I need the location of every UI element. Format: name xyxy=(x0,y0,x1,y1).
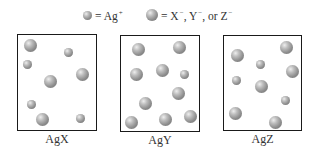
anion-sphere-icon xyxy=(280,41,293,54)
anion-sphere-icon xyxy=(139,97,152,110)
silver-ion-sphere-icon xyxy=(232,76,241,85)
silver-ion-sphere-icon xyxy=(281,96,290,105)
anion-sphere-icon xyxy=(36,113,49,126)
silver-ion-sphere-icon xyxy=(76,114,85,123)
silver-ion-sphere-icon xyxy=(64,48,73,57)
anion-sphere-icon xyxy=(130,68,143,81)
anion-sphere-icon xyxy=(125,116,138,129)
anion-sphere-icon xyxy=(132,43,145,56)
legend-label-silver: = Ag+ xyxy=(95,9,123,22)
panel-label-agx: AgX xyxy=(27,132,87,147)
legend-item-anion: = X−, Y−, or Z− xyxy=(146,6,232,24)
anion-sphere-icon xyxy=(184,110,197,123)
anion-sphere-icon xyxy=(269,116,282,129)
panel-label-agy: AgY xyxy=(130,133,190,148)
anion-sphere-icon xyxy=(255,80,268,93)
anion-sphere-icon xyxy=(172,87,185,100)
silver-ion-sphere-icon xyxy=(256,60,265,69)
small-sphere-icon xyxy=(83,11,92,20)
large-sphere-icon xyxy=(146,9,158,21)
silver-ion-sphere-icon xyxy=(180,70,189,79)
legend-label-anion: = X−, Y−, or Z− xyxy=(161,9,232,22)
anion-sphere-icon xyxy=(286,65,299,78)
legend: = Ag+ = X−, Y−, or Z− xyxy=(0,6,316,24)
anion-sphere-icon xyxy=(231,49,244,62)
silver-ion-sphere-icon xyxy=(23,60,32,69)
legend-item-silver: = Ag+ xyxy=(83,6,123,24)
anion-sphere-icon xyxy=(24,39,37,52)
silver-ion-sphere-icon xyxy=(27,100,36,109)
anion-sphere-icon xyxy=(173,41,186,54)
anion-sphere-icon xyxy=(156,64,169,77)
anion-sphere-icon xyxy=(76,68,89,81)
anion-sphere-icon xyxy=(44,75,57,88)
panel-label-agz: AgZ xyxy=(233,132,293,147)
anion-sphere-icon xyxy=(229,107,242,120)
anion-sphere-icon xyxy=(159,113,172,126)
